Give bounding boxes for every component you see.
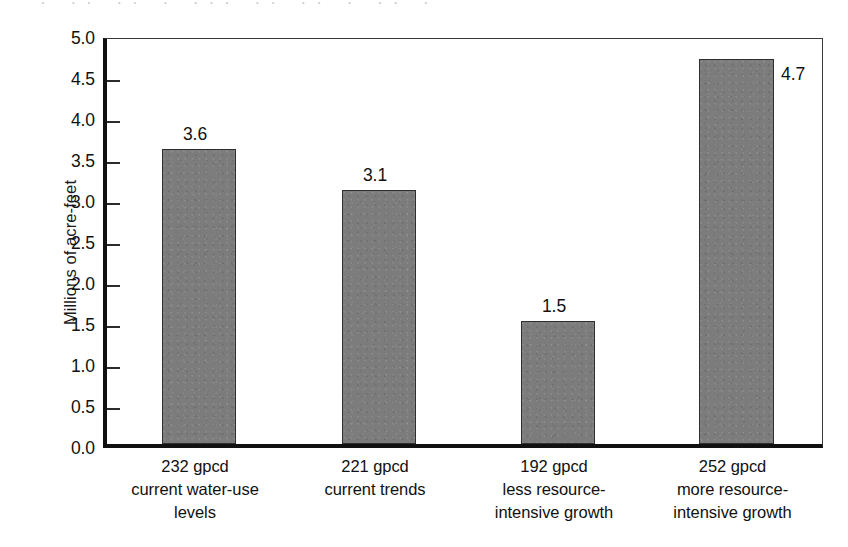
y-axis-tick-label: 5.0 [43,28,95,49]
y-axis-tick [107,408,120,410]
y-axis-tick-label: 4.0 [43,110,95,131]
category-label-line: current trends [280,478,470,501]
y-axis-tick [107,203,120,205]
y-axis-tick-label: 1.0 [43,356,95,377]
scan-artifact-sliver: · ·· ·· · ··· ·· ·· · ·· · [40,0,740,5]
category-label-line: 252 gpcd [638,455,828,478]
bar-chart-figure: · ·· ·· · ··· ·· ·· · ·· · Millions of a… [0,0,848,547]
y-axis-tick-label: 3.0 [43,192,95,213]
category-label-line: intensive growth [459,501,649,524]
y-axis-tick [107,121,120,123]
category-label-line: 192 gpcd [459,455,649,478]
y-axis-tick-label: 4.5 [43,69,95,90]
bar[interactable] [521,321,595,444]
category-label-line: more resource- [638,478,828,501]
bar-value-label: 1.5 [497,296,611,317]
x-axis-category-label: 232 gpcdcurrent water-uselevels [100,455,290,524]
y-axis-tick [107,367,120,369]
y-axis-tick-label: 1.5 [43,315,95,336]
y-axis-tick [107,326,120,328]
plot-area [103,38,823,448]
y-axis-tick-label: 3.5 [43,151,95,172]
category-label-line: 232 gpcd [100,455,290,478]
bar[interactable] [699,59,774,444]
bar-value-label: 3.6 [138,124,252,145]
x-axis-category-label: 221 gpcdcurrent trends [280,455,470,501]
y-axis-tick-label: 0.0 [43,438,95,459]
y-axis-tick-label: 2.5 [43,233,95,254]
category-label-line: less resource- [459,478,649,501]
bar[interactable] [162,149,236,444]
category-label-line: levels [100,501,290,524]
x-axis-category-label: 252 gpcdmore resource-intensive growth [638,455,828,524]
x-axis-category-label: 192 gpcdless resource-intensive growth [459,455,649,524]
y-axis-tick [107,285,120,287]
category-label-line: 221 gpcd [280,455,470,478]
bar-value-label: 4.7 [781,64,805,85]
category-label-line: intensive growth [638,501,828,524]
bar[interactable] [342,190,416,444]
y-axis-tick [107,162,120,164]
y-axis-tick [107,244,120,246]
bar-value-label: 3.1 [318,165,432,186]
y-axis-tick-label: 0.5 [43,397,95,418]
plot-surface [107,39,822,444]
y-axis-tick [107,80,120,82]
category-label-line: current water-use [100,478,290,501]
y-axis-tick-label: 2.0 [43,274,95,295]
